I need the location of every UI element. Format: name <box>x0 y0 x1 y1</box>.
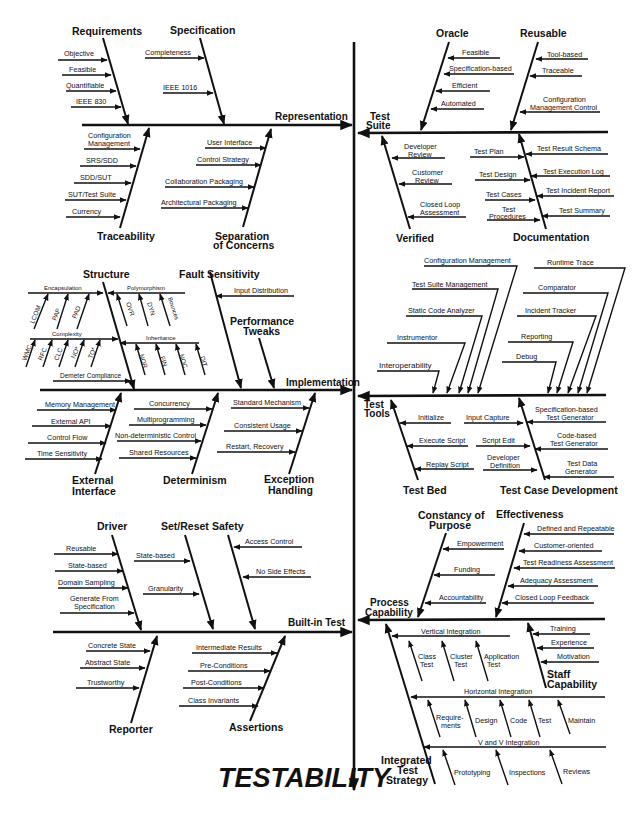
item: Inspections <box>509 768 546 777</box>
svg-text:Purpose: Purpose <box>429 519 471 531</box>
svg-text:Test: Test <box>454 660 467 669</box>
spine-test-tools: Test Tools Configuration Management Test… <box>358 256 625 496</box>
svg-text:OVR: OVR <box>125 301 136 317</box>
item: Debug <box>516 352 537 361</box>
branch-documentation: Documentation <box>513 231 589 243</box>
item: Comparator <box>538 283 577 292</box>
item: Maintain <box>568 716 595 725</box>
item: SRS/SDD <box>86 156 118 165</box>
spine-built-in-test: Built-in Test Driver Reusable State-base… <box>53 520 352 735</box>
item: Input Distribution <box>234 286 288 295</box>
item: Input Capture <box>466 413 510 422</box>
svg-text:Test: Test <box>420 660 433 669</box>
item: Interoperability <box>379 361 431 370</box>
sub-branch: Encapsulation <box>44 285 82 291</box>
svg-text:Definition: Definition <box>490 461 520 470</box>
item: Feasible <box>69 65 96 74</box>
svg-text:Generator: Generator <box>565 467 598 476</box>
spine-label-implementation: Implementation <box>286 377 360 388</box>
svg-text:FIN: FIN <box>159 355 169 367</box>
item: Training <box>550 624 576 633</box>
item: Execute Script <box>419 436 465 445</box>
branch-effectiveness: Effectiveness <box>496 508 564 520</box>
diagram-title: TESTABILITY <box>218 763 393 793</box>
svg-text:Tools: Tools <box>364 408 390 419</box>
item: Funding <box>454 565 480 574</box>
item: Control Strategy <box>197 155 249 164</box>
spine-implementation: Implementation Structure Encapsulation L… <box>20 268 359 497</box>
branch-assertions: Assertions <box>229 721 283 733</box>
item: Domain Sampling <box>58 578 115 587</box>
svg-text:Capability: Capability <box>365 607 413 618</box>
item: Test Execution Log <box>543 167 604 176</box>
item: Instrumentor <box>397 333 438 342</box>
item: Test Cases <box>486 190 522 199</box>
svg-text:DYN: DYN <box>146 301 157 317</box>
svg-text:Handling: Handling <box>268 484 313 496</box>
branch-test-case-development: Test Case Development <box>500 484 618 496</box>
branch-traceability: Traceability <box>97 230 155 242</box>
svg-text:NOC: NOC <box>178 353 189 369</box>
item: State-based <box>136 551 175 560</box>
item: Intermediate Results <box>196 643 262 652</box>
item: Demeter Compliance <box>60 372 121 380</box>
item: Configuration Management <box>424 256 511 265</box>
item: Reusable <box>66 544 96 553</box>
item: Tool-based <box>547 50 582 59</box>
svg-text:of Concerns: of Concerns <box>213 239 274 251</box>
item: Objective <box>64 49 94 58</box>
item: External API <box>51 417 91 426</box>
branch-reporter: Reporter <box>109 723 153 735</box>
item: Collaboration Packaging <box>165 177 243 186</box>
branch-driver: Driver <box>97 520 127 532</box>
item: Shared Resources <box>129 448 189 457</box>
svg-text:Capability: Capability <box>547 678 597 690</box>
item: IEEE 1016 <box>163 83 197 92</box>
svg-text:Strategy: Strategy <box>386 774 428 786</box>
branch-specification: Specification <box>170 24 235 36</box>
sub-branch: Vertical Integration <box>421 627 481 636</box>
item: Test Result Schema <box>537 144 601 153</box>
svg-text:Tweaks: Tweaks <box>243 325 280 337</box>
item: Adequacy Assessment <box>520 576 593 585</box>
branch-fault-sensitivity: Fault Sensitivity <box>179 268 260 280</box>
item: Automated <box>441 99 476 108</box>
item: Reviews <box>563 767 591 776</box>
item: SUT/Test Suite <box>68 190 116 199</box>
item: Specification-based <box>449 64 512 73</box>
item: Post-Conditions <box>191 678 242 687</box>
item: Quantifiable <box>66 81 104 90</box>
item: Multiprogramming <box>137 415 195 424</box>
svg-text:Management Control: Management Control <box>530 103 598 112</box>
spine-label-representation: Representation <box>275 111 348 122</box>
svg-text:ments: ments <box>441 721 461 730</box>
branch-reusable: Reusable <box>520 27 567 39</box>
item: Motivation <box>557 652 590 661</box>
item: Class Invariants <box>188 696 240 705</box>
item: Restart, Recovery <box>226 442 284 451</box>
item: Test Design <box>479 170 517 179</box>
svg-text:NOR: NOR <box>138 353 149 369</box>
item: SDD/SUT <box>80 173 112 182</box>
item: Empowerment <box>457 539 503 548</box>
svg-text:Test Generator: Test Generator <box>546 413 594 422</box>
svg-text:Interface: Interface <box>72 485 116 497</box>
branch-oracle: Oracle <box>436 27 469 39</box>
branch-structure: Structure <box>83 268 130 280</box>
svg-text:PAD: PAD <box>70 305 81 320</box>
item: Concurrency <box>149 399 190 408</box>
svg-text:NO*: NO* <box>69 345 80 359</box>
item: Traceable <box>542 66 574 75</box>
sub-branch: Polymorphism <box>127 285 165 291</box>
svg-text:Management: Management <box>88 139 130 148</box>
item: Pre-Conditions <box>200 661 248 670</box>
item: Incident Tracker <box>525 306 577 315</box>
branch-requirements: Requirements <box>72 25 142 37</box>
item: Memory Management <box>45 400 115 409</box>
item: Reporting <box>521 332 552 341</box>
item: Replay Script <box>426 460 469 469</box>
item: Test <box>538 716 551 725</box>
spine-representation: Representation Requirements Objective Fe… <box>58 24 352 251</box>
item: Completeness <box>145 48 191 57</box>
spine-label-built-in-test: Built-in Test <box>288 617 346 628</box>
